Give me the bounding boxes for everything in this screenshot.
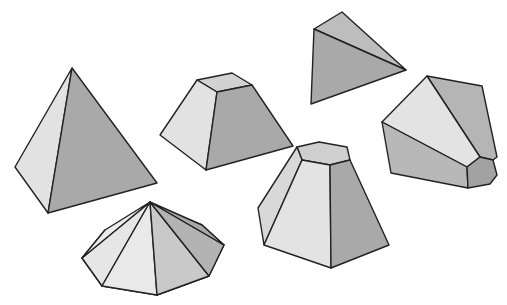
tetrahedron-pyramid-left (15, 68, 157, 213)
tetrahedron-top (311, 12, 406, 104)
polyhedra-figure (0, 0, 507, 305)
square-frustum (160, 73, 293, 170)
octagonal-pyramid (82, 202, 224, 295)
hexagonal-truncated-solid-right (382, 76, 497, 188)
hexagonal-frustum (258, 142, 389, 268)
